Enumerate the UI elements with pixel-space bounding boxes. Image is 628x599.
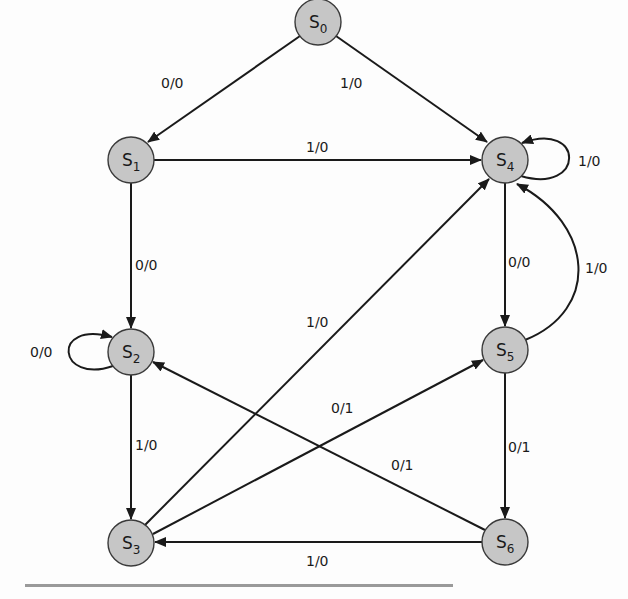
edge-s6-s2 xyxy=(153,362,485,530)
state-node-s1: S1 xyxy=(108,137,154,183)
footer-divider xyxy=(25,584,453,587)
state-node-s5: S5 xyxy=(482,327,528,373)
state-node-s0: S0 xyxy=(295,0,341,45)
edge-s2-self-loop xyxy=(69,334,113,369)
state-node-s6: S6 xyxy=(482,519,528,565)
state-node-s2: S2 xyxy=(108,329,154,375)
edge-label-s6-s2: 0/1 xyxy=(391,457,414,473)
edge-label-s1-s2: 0/0 xyxy=(135,257,158,273)
edge-label-s1-s4: 1/0 xyxy=(306,139,329,155)
edge-label-s5-s4: 1/0 xyxy=(585,260,608,276)
edge-label-s5-s6: 0/1 xyxy=(508,439,531,455)
edges xyxy=(69,36,579,542)
edge-label-s2-self: 0/0 xyxy=(30,344,53,360)
edge-label-s6-s3: 1/0 xyxy=(306,553,329,569)
edge-label-s3-s4: 1/0 xyxy=(306,314,329,330)
edge-label-s4-s5: 0/0 xyxy=(508,254,531,270)
edge-label-s4-self: 1/0 xyxy=(578,153,601,169)
edge-label-s0-s1: 0/0 xyxy=(161,75,184,91)
state-node-s4: S4 xyxy=(482,137,528,183)
state-diagram: 0/0 1/0 1/0 0/0 0/0 1/0 1/0 0/1 0/1 0/0 … xyxy=(0,0,628,599)
edge-label-s0-s4: 1/0 xyxy=(340,75,363,91)
state-node-s3: S3 xyxy=(108,520,154,566)
edge-s3-s4 xyxy=(145,179,489,525)
edge-label-s3-s5: 0/1 xyxy=(331,400,354,416)
edge-label-s2-s3: 1/0 xyxy=(135,437,158,453)
